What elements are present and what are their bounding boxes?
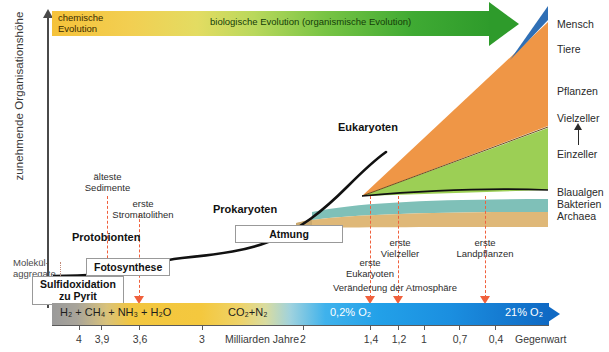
atmosphere-oxygen-low: 0,2% O₂ xyxy=(330,306,371,318)
time-tick-1 xyxy=(424,325,425,330)
event-label-erste-landpflanzen-line1: erste xyxy=(432,238,538,249)
time-tick-1-4 xyxy=(370,325,371,330)
event-label-aelteste-sedimente: älteste Sedimente xyxy=(55,172,160,193)
time-label-3-6: 3,6 xyxy=(126,333,154,345)
time-tick-0-7 xyxy=(459,325,460,330)
taxon-label-blaualgen: Blaualgen xyxy=(557,186,604,198)
event-label-erste-stromatolithen-line2: Stromatolithen xyxy=(88,210,198,221)
event-label-aelteste-sedimente-line2: Sedimente xyxy=(55,183,160,194)
time-label-1-4: 1,4 xyxy=(357,333,385,345)
atmosphere-composition-early: H₂ + CH₄ + NH₃ + H₂O xyxy=(60,306,171,318)
time-label-3: 3 xyxy=(192,333,212,345)
time-label-0-7: 0,7 xyxy=(446,333,474,345)
time-label-0-4: 0,4 xyxy=(482,333,510,345)
time-axis-line xyxy=(52,325,549,326)
event-label-erste-eukaryoten-line2: Eukaryoten xyxy=(320,269,420,280)
taxon-label-pflanzen: Pflanzen xyxy=(557,85,598,97)
taxon-label-archaea: Archaea xyxy=(557,210,596,222)
event-label-erste-eukaryoten-line1: erste xyxy=(320,258,420,269)
time-label-3-9: 3,9 xyxy=(88,333,116,345)
box-sulfidoxidation-line2: zu Pyrit xyxy=(40,291,116,303)
box-sulfidoxidation[interactable]: Sulfidoxidation zu Pyrit xyxy=(32,276,124,305)
chemical-evolution-line1: chemische xyxy=(58,13,103,24)
time-tick-3-6 xyxy=(139,325,140,330)
time-tick-2 xyxy=(303,325,304,330)
label-protobionten: Protobionten xyxy=(72,231,140,243)
atmosphere-composition-mid: CO₂+N₂ xyxy=(228,306,267,318)
chemical-evolution-line2: Evolution xyxy=(58,24,103,35)
box-atmung[interactable]: Atmung xyxy=(235,225,343,243)
time-label-4: 4 xyxy=(69,333,89,345)
event-label-erste-eukaryoten: erste Eukaryoten xyxy=(320,258,420,279)
event-label-erste-stromatolithen-line1: erste xyxy=(88,199,198,210)
taxon-label-mensch: Mensch xyxy=(557,18,594,30)
time-tick-0-4 xyxy=(495,325,496,330)
time-tick-1-2 xyxy=(398,325,399,330)
time-axis-unit-label: Milliarden Jahre xyxy=(212,333,312,345)
chemical-evolution-label: chemische Evolution xyxy=(58,13,103,34)
guide-line-erste-stromatolithen xyxy=(139,214,140,298)
label-molekulaggregate-line1: Molekül- xyxy=(13,258,65,269)
event-label-aelteste-sedimente-line1: älteste xyxy=(55,172,160,183)
taxon-label-einzeller: Einzeller xyxy=(557,148,597,160)
label-eukaryoten: Eukaryoten xyxy=(338,121,398,133)
taxon-label-bakterien: Bakterien xyxy=(557,198,601,210)
box-fotosynthese[interactable]: Fotosynthese xyxy=(86,258,170,276)
time-label-1-2: 1,2 xyxy=(385,333,413,345)
atmosphere-bar-arrowhead xyxy=(548,306,560,322)
time-tick-3 xyxy=(202,325,203,330)
time-tick-4 xyxy=(79,325,80,330)
event-label-erste-landpflanzen: erste Landpflanzen xyxy=(432,238,538,259)
atmosphere-change-note: Veränderung der Atmosphäre xyxy=(300,283,490,294)
time-tick-3-9 xyxy=(101,325,102,330)
label-prokaryoten: Prokaryoten xyxy=(213,203,277,215)
time-axis-present-label: Gegenwart xyxy=(515,333,595,345)
box-sulfidoxidation-line1: Sulfidoxidation xyxy=(40,279,116,291)
taxon-label-tiere: Tiere xyxy=(557,43,581,55)
y-axis-label: zunehmende Organisationshöhe xyxy=(13,0,25,211)
atmosphere-oxygen-high: 21% O₂ xyxy=(505,306,543,318)
event-label-erste-landpflanzen-line2: Landpflanzen xyxy=(432,249,538,260)
event-label-erste-stromatolithen: erste Stromatolithen xyxy=(88,199,198,220)
vielzeller-einzeller-arrow-line xyxy=(578,128,579,145)
time-label-1: 1 xyxy=(414,333,434,345)
